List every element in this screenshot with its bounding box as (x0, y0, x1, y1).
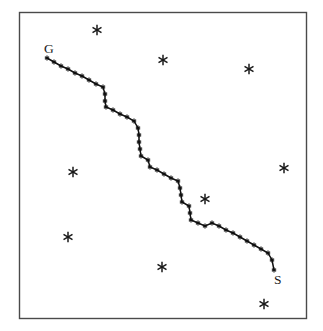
start-label: S (274, 272, 282, 287)
figure-canvas: GS (0, 0, 323, 331)
goal-label: G (44, 41, 54, 56)
path-planning-figure: GS (0, 0, 323, 331)
